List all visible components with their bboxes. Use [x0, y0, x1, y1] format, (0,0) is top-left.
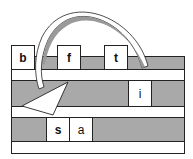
curved-arrow-icon [0, 0, 193, 159]
